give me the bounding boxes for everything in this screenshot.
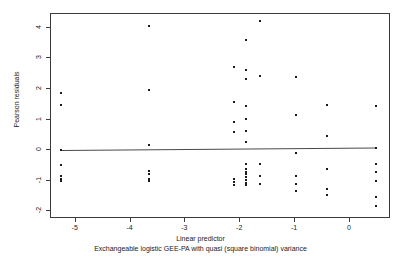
- x-tick-label: -4: [118, 223, 142, 232]
- x-tick-label: -2: [227, 223, 251, 232]
- data-point: [326, 168, 328, 170]
- data-point: [295, 76, 297, 78]
- data-point: [60, 180, 62, 182]
- y-axis-title: Pearson residuals: [12, 40, 21, 160]
- data-area: [51, 14, 389, 217]
- x-axis-title-group: Linear predictor Exchangeable logistic G…: [0, 234, 401, 253]
- data-point: [245, 163, 247, 165]
- data-point: [233, 181, 235, 183]
- data-point: [375, 171, 377, 173]
- data-point: [245, 168, 247, 170]
- y-tick-label: 1: [34, 114, 44, 124]
- x-tick: [75, 218, 76, 222]
- y-tick-label: 2: [34, 83, 44, 93]
- data-point: [326, 194, 328, 196]
- y-tick-label: 4: [34, 22, 44, 32]
- x-axis-subtitle: Exchangeable logistic GEE-PA with quasi …: [0, 244, 401, 254]
- data-point: [233, 101, 235, 103]
- data-point: [375, 205, 377, 207]
- x-tick: [130, 218, 131, 222]
- x-tick-label: -3: [172, 223, 196, 232]
- data-point: [259, 175, 261, 177]
- data-point: [245, 176, 247, 178]
- data-point: [233, 121, 235, 123]
- data-point: [233, 178, 235, 180]
- y-tick-label: 3: [34, 52, 44, 62]
- data-point: [233, 66, 235, 68]
- data-point: [326, 188, 328, 190]
- data-point: [295, 175, 297, 177]
- data-point: [295, 114, 297, 116]
- data-point: [245, 173, 247, 175]
- x-tick: [184, 218, 185, 222]
- y-tick-label: -1: [34, 175, 44, 185]
- x-tick-label: -5: [63, 223, 87, 232]
- data-point: [148, 89, 150, 91]
- data-point: [148, 25, 150, 27]
- data-point: [245, 184, 247, 186]
- data-point: [295, 152, 297, 154]
- data-point: [375, 163, 377, 165]
- data-point: [375, 196, 377, 198]
- data-point: [375, 180, 377, 182]
- data-point: [60, 149, 62, 151]
- data-point: [245, 118, 247, 120]
- data-point: [245, 105, 247, 107]
- data-point: [245, 179, 247, 181]
- data-point: [245, 141, 247, 143]
- x-tick-label: 0: [337, 223, 361, 232]
- data-point: [326, 104, 328, 106]
- data-point: [375, 105, 377, 107]
- x-tick: [294, 218, 295, 222]
- plot-frame: [50, 13, 390, 218]
- x-tick-label: -1: [282, 223, 306, 232]
- data-point: [233, 184, 235, 186]
- data-point: [295, 190, 297, 192]
- data-point: [148, 144, 150, 146]
- data-point: [60, 164, 62, 166]
- x-tick: [349, 218, 350, 222]
- y-tick-label: 0: [34, 144, 44, 154]
- data-point: [259, 163, 261, 165]
- data-point: [245, 78, 247, 80]
- data-point: [148, 180, 150, 182]
- data-point: [259, 183, 261, 185]
- reference-line: [61, 148, 376, 151]
- data-point: [259, 20, 261, 22]
- scatter-plot-figure: Pearson residuals 43210-1-2 -5-4-3-2-10 …: [0, 0, 401, 261]
- data-point: [245, 39, 247, 41]
- x-axis-title: Linear predictor: [0, 234, 401, 244]
- x-tick: [239, 218, 240, 222]
- data-point: [259, 75, 261, 77]
- data-point: [60, 104, 62, 106]
- data-point: [245, 130, 247, 132]
- data-point: [375, 147, 377, 149]
- data-point: [148, 170, 150, 172]
- data-point: [148, 173, 150, 175]
- y-tick-label: -2: [34, 205, 44, 215]
- data-point: [60, 92, 62, 94]
- data-point: [295, 183, 297, 185]
- data-point: [245, 69, 247, 71]
- data-point: [326, 135, 328, 137]
- data-point: [233, 131, 235, 133]
